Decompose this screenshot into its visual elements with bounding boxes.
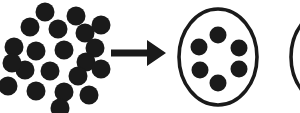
free-particle-dot bbox=[36, 3, 55, 22]
free-particle-dot bbox=[3, 54, 22, 73]
free-particle-dot bbox=[41, 62, 60, 81]
encapsulated-particle-dot bbox=[191, 39, 208, 56]
free-particle-dot bbox=[67, 7, 86, 26]
encapsulated-particle-dot bbox=[210, 75, 227, 92]
free-particle-dot bbox=[21, 18, 40, 37]
free-particle-dot bbox=[92, 16, 111, 35]
free-particle-dot bbox=[27, 82, 46, 101]
free-particle-dot bbox=[27, 42, 46, 61]
free-particle-dot bbox=[55, 83, 74, 102]
free-particle-dot bbox=[5, 38, 24, 57]
encapsulated-particle-dot bbox=[231, 61, 248, 78]
diagram-canvas bbox=[0, 0, 300, 113]
free-particle-dot bbox=[69, 67, 88, 86]
diagram-svg bbox=[0, 0, 300, 113]
encapsulated-particle-dot bbox=[231, 40, 248, 57]
free-particle-dot bbox=[80, 86, 99, 105]
encapsulated-particle-dot bbox=[210, 27, 227, 44]
free-particle-dot bbox=[92, 60, 111, 79]
free-particle-dot bbox=[49, 20, 68, 39]
free-particle-dot bbox=[55, 41, 74, 60]
encapsulated-particle-dot bbox=[192, 62, 209, 79]
